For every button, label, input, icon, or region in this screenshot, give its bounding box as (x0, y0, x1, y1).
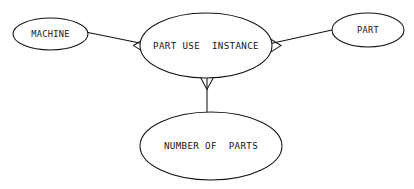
edge-part-use-instance-to-number-of-parts (200, 75, 215, 113)
node-number-of-parts[interactable]: NUMBER OF PARTS (140, 112, 282, 180)
node-part-use-instance[interactable]: PART USE INSTANCE (140, 13, 272, 78)
edge-part-use-instance-to-part (262, 30, 332, 55)
node-number-of-parts-label: NUMBER OF PARTS (164, 140, 258, 151)
node-part-use-instance-label: PART USE INSTANCE (153, 40, 259, 51)
node-part[interactable]: PART (332, 13, 404, 47)
node-machine-label: MACHINE (31, 29, 69, 39)
connector-line-part (262, 30, 332, 46)
er-diagram-canvas: MACHINE PART USE INSTANCE PART NUMBER OF… (0, 0, 414, 189)
er-diagram-svg: MACHINE PART USE INSTANCE PART NUMBER OF… (0, 0, 414, 189)
node-machine[interactable]: MACHINE (13, 18, 88, 50)
node-part-label: PART (357, 25, 379, 35)
